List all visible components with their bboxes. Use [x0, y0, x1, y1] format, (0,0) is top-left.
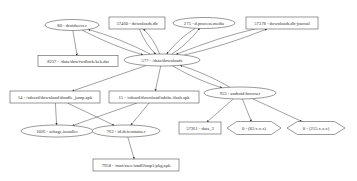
- node-ellipse[interactable]: 953 - android.browser: [204, 87, 276, 99]
- node-ellipse[interactable]: 577 - /data/downloads: [124, 54, 200, 66]
- node-label: 8237 - /data/drm/fwdlock/kek.dat: [47, 59, 109, 64]
- node-label: 57361 - data_3: [186, 126, 214, 131]
- node-box[interactable]: 57460 - downloads.db: [109, 17, 165, 29]
- node-label: 7958 - /mnt/asec/smdl2tmp1/pkg.apk: [102, 163, 171, 168]
- edge-n577-to-n14: [72, 66, 146, 92]
- node-box[interactable]: 7958 - /mnt/asec/smdl2tmp1/pkg.apk: [93, 159, 179, 171]
- node-box[interactable]: 14 - /sdcard/download/doodle_jump.apk: [10, 91, 100, 103]
- node-hexagon[interactable]: 0 - (215.x.x.x): [287, 122, 345, 135]
- edge-n953-to-n0a: [242, 99, 251, 122]
- node-label: 1026 - ackage.installer: [36, 129, 78, 134]
- edge-n762-to-n7958: [128, 137, 134, 159]
- edge-n275-to-n577: [167, 28, 196, 54]
- node-ellipse[interactable]: 80 - droidserver: [45, 20, 99, 31]
- edge-n14-to-n762: [68, 103, 115, 125]
- node-ellipse[interactable]: 275 - d.process.media: [173, 18, 235, 29]
- node-box[interactable]: 8237 - /data/drm/fwdlock/kek.dat: [38, 56, 118, 67]
- node-label: 0 - (215.x.x.x): [303, 126, 330, 131]
- edge-n953-to-n577: [180, 65, 230, 87]
- node-label: 57460 - downloads.db: [117, 21, 159, 26]
- provenance-graph: 80 - droidserver57460 - downloads.db275 …: [0, 0, 357, 181]
- edge-n577-to-n57378: [184, 29, 267, 55]
- edge-n577-to-n275: [172, 28, 200, 54]
- node-label: 275 - d.process.media: [184, 21, 224, 26]
- node-box[interactable]: 57378 - downloads.db-journal: [246, 17, 318, 29]
- edge-n80-to-n577: [82, 30, 143, 55]
- node-label: 577 - /data/downloads: [142, 58, 183, 63]
- edge-n953-to-n57361: [207, 99, 233, 122]
- edge-n80-to-n8237: [73, 31, 77, 56]
- edge-n953-to-n0b: [252, 99, 302, 122]
- edge-n14-to-n1026: [55, 103, 56, 125]
- node-label: 15 - /sdcard/download/adobe.flash.apk: [118, 95, 190, 100]
- node-label: 762 - id.defcontainer: [107, 129, 146, 134]
- node-label: 57378 - downloads.db-journal: [254, 21, 310, 26]
- node-layer: 80 - droidserver57460 - downloads.db275 …: [10, 17, 345, 171]
- node-box[interactable]: 15 - /sdcard/download/adobe.flash.apk: [109, 91, 199, 103]
- node-label: 0 - (82.x.x.x): [242, 126, 267, 131]
- edge-n15-to-n1026: [73, 103, 137, 126]
- node-ellipse[interactable]: 1026 - ackage.installer: [21, 125, 93, 137]
- node-label: 80 - droidserver: [57, 23, 87, 28]
- node-hexagon[interactable]: 0 - (82.x.x.x): [227, 122, 281, 135]
- node-ellipse[interactable]: 762 - id.defcontainer: [92, 125, 160, 137]
- node-label: 14 - /sdcard/download/doodle_jump.apk: [18, 95, 93, 100]
- edge-n577-to-n953: [172, 66, 222, 88]
- node-label: 953 - android.browser: [220, 91, 261, 96]
- edge-n15-to-n762: [131, 103, 149, 125]
- edge-n577-to-n15: [155, 66, 160, 91]
- node-box[interactable]: 57361 - data_3: [179, 122, 221, 134]
